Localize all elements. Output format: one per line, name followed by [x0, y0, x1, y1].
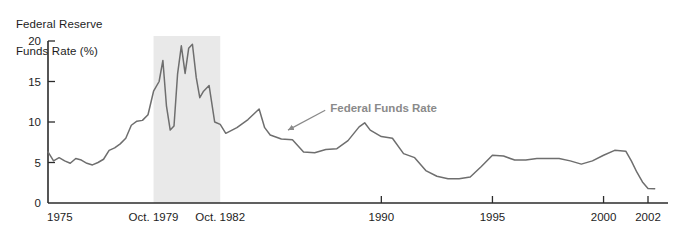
y-tick-label: 5: [35, 157, 41, 169]
data-series-federal-funds-rate: [48, 44, 655, 189]
y-tick-label: 15: [28, 76, 41, 88]
y-tick-label: 0: [35, 197, 41, 209]
y-axis-ticks: 05101520: [28, 35, 55, 209]
x-tick-label: 1975: [47, 211, 73, 223]
x-tick-label: Oct. 1982: [195, 211, 245, 223]
x-axis-ticks: 1975Oct. 1979Oct. 19821990199520002002: [47, 196, 661, 223]
x-tick-label: 2000: [591, 211, 617, 223]
x-tick-label: Oct. 1979: [129, 211, 179, 223]
x-tick-label: 1995: [480, 211, 506, 223]
x-tick-label: 1990: [369, 211, 395, 223]
chart-figure: Federal Reserve Funds Rate (%) 05101520 …: [0, 0, 685, 240]
annotation-arrow-icon: [288, 110, 325, 130]
annotation-label-federal-funds-rate: Federal Funds Rate: [330, 102, 437, 114]
chart-plot-area: 05101520 1975Oct. 1979Oct. 1982199019952…: [0, 0, 685, 240]
y-tick-label: 20: [28, 35, 41, 47]
x-tick-label: 2002: [635, 211, 661, 223]
y-tick-label: 10: [28, 116, 41, 128]
